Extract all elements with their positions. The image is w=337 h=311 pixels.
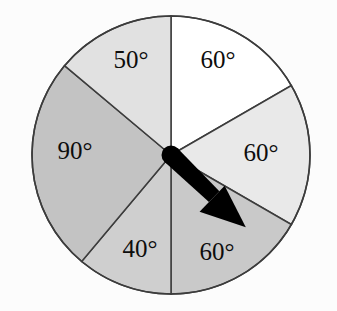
sector-label-90: 90° bbox=[58, 137, 93, 164]
sector-label-40: 40° bbox=[123, 235, 158, 262]
sector-label-50: 50° bbox=[114, 46, 149, 73]
sector-label-60-right: 60° bbox=[244, 139, 279, 166]
sector-label-60-bottom-right: 60° bbox=[200, 238, 235, 265]
spinner-hub[interactable] bbox=[162, 146, 181, 165]
spinner-wheel: 60° 60° 60° 40° 90° 50° bbox=[0, 0, 337, 311]
diagram-canvas: 60° 60° 60° 40° 90° 50° bbox=[0, 0, 337, 311]
sector-label-60-top: 60° bbox=[201, 46, 236, 73]
